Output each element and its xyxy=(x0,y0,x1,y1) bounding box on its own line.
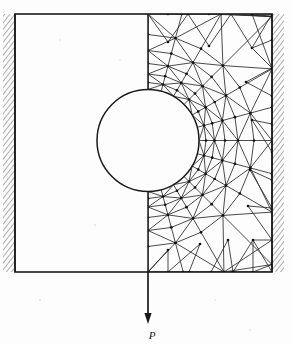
mesh-node xyxy=(167,65,170,68)
mesh-node xyxy=(251,47,254,50)
mesh-node xyxy=(203,124,206,127)
mesh-node xyxy=(210,76,213,79)
mesh-node xyxy=(234,162,237,165)
mesh-node xyxy=(204,172,207,175)
mesh-node xyxy=(167,214,170,217)
mesh-node xyxy=(170,226,173,229)
load-label: P xyxy=(148,329,156,341)
mesh-node xyxy=(227,239,230,242)
mesh-node xyxy=(245,81,248,84)
mesh-node xyxy=(192,61,195,64)
mesh-node xyxy=(201,194,204,197)
mesh-node xyxy=(252,239,255,242)
mesh-node xyxy=(225,184,228,187)
mesh-node xyxy=(247,205,250,208)
mesh-node xyxy=(213,139,216,142)
mesh-node xyxy=(210,203,213,206)
mesh-node xyxy=(197,168,200,171)
mesh-node xyxy=(213,101,216,104)
mesh-node xyxy=(164,203,167,206)
figure-root: P xyxy=(0,0,292,345)
mesh-node xyxy=(164,75,167,78)
mesh-node xyxy=(170,52,173,55)
mesh-node xyxy=(180,82,183,85)
mesh-node xyxy=(188,180,191,183)
mesh-node xyxy=(211,156,214,159)
mesh-node xyxy=(194,186,197,189)
mesh-node xyxy=(251,119,254,122)
mesh-node xyxy=(162,83,165,86)
mesh-node xyxy=(185,72,188,75)
mesh-node xyxy=(237,139,240,142)
mesh-node xyxy=(185,206,188,209)
mesh-node xyxy=(203,154,206,157)
mesh-node xyxy=(176,189,179,192)
mesh-node xyxy=(222,214,225,217)
mesh-node xyxy=(204,106,207,109)
mesh-node xyxy=(238,86,241,89)
mesh-node xyxy=(174,242,177,245)
mesh-node xyxy=(197,110,200,113)
mesh-node xyxy=(249,169,252,172)
mesh-node xyxy=(253,139,256,142)
mesh-node xyxy=(249,112,252,115)
fe-mesh-diagram: P xyxy=(0,0,292,345)
left-fixed-support xyxy=(3,14,15,272)
mesh-node xyxy=(234,116,237,119)
mesh-node xyxy=(238,192,241,195)
mesh-node xyxy=(221,119,224,122)
mesh-node xyxy=(222,64,225,67)
mesh-node xyxy=(224,139,227,142)
mesh-node xyxy=(167,41,170,44)
mesh-node xyxy=(200,47,203,50)
right-fixed-support xyxy=(272,14,284,272)
mesh-node xyxy=(201,85,204,88)
mesh-node xyxy=(205,139,208,142)
mesh-node xyxy=(192,217,195,220)
mesh-node xyxy=(200,231,203,234)
mesh-node xyxy=(211,122,214,125)
mesh-node xyxy=(174,37,177,40)
mesh-node xyxy=(162,195,165,198)
mesh-node xyxy=(167,249,170,252)
circular-hole xyxy=(97,90,199,192)
mesh-node xyxy=(180,197,183,200)
mesh-node xyxy=(188,98,191,101)
mesh-node xyxy=(213,178,216,181)
mesh-node xyxy=(225,94,228,97)
mesh-node xyxy=(199,243,202,246)
mesh-node xyxy=(176,89,179,92)
mesh-node xyxy=(221,159,224,162)
mesh-node xyxy=(194,92,197,95)
mesh-node xyxy=(208,45,211,48)
